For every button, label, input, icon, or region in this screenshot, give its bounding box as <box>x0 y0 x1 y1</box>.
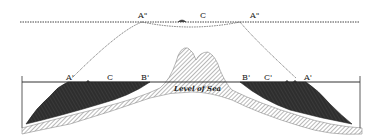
label-level-of-sea: Level of Sea <box>173 84 222 93</box>
left-islet-marker <box>86 80 90 82</box>
label-top-right-A: A" <box>249 11 259 20</box>
cross-section-diagram: A" C A" A' C B' B' C' A' Level of Sea <box>0 0 381 139</box>
label-right-B: B' <box>242 73 250 82</box>
label-top-center-C: C <box>200 11 206 20</box>
left-dotted-slope <box>72 22 142 78</box>
right-dotted-slope <box>240 22 296 78</box>
right-islet-marker-2 <box>293 80 297 82</box>
label-left-B: B' <box>141 73 149 82</box>
label-top-left-A: A" <box>137 11 147 20</box>
right-islet-marker-1 <box>285 80 289 82</box>
label-left-A: A' <box>65 73 74 82</box>
label-left-C: C <box>107 73 113 82</box>
upper-lens <box>142 22 240 27</box>
label-right-A: A' <box>303 73 312 82</box>
small-island-top <box>178 20 186 22</box>
label-right-C: C' <box>264 73 272 82</box>
